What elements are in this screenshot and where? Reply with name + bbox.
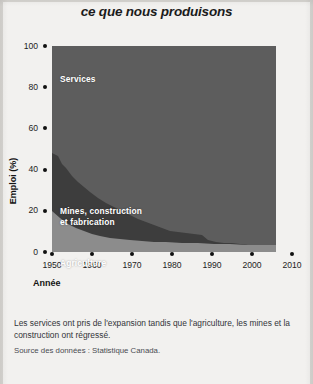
y-tick-label: 80 <box>28 82 38 93</box>
y-tick-dot <box>43 209 47 213</box>
y-tick-dot <box>43 168 47 172</box>
y-tick-dot <box>43 126 47 130</box>
x-tick-dot <box>210 252 214 256</box>
x-tick-dot <box>130 252 134 256</box>
caption-text: Les services ont pris de l'expansion tan… <box>14 318 299 341</box>
caption-source: Source des données : Statistique Canada. <box>14 346 299 356</box>
chart-title: ce que nous produisons <box>0 4 313 19</box>
y-tick-80: 80 <box>0 82 50 93</box>
y-axis-title: Emploi (%) <box>8 141 18 221</box>
y-tick-label: 100 <box>24 41 38 52</box>
y-tick-100: 100 <box>0 41 50 52</box>
band-label-mines-construction-fabrication: Mines, construction et fabrication <box>60 206 142 227</box>
x-tick-label: 1990 <box>192 260 232 270</box>
caption-block: Les services ont pris de l'expansion tan… <box>14 318 299 356</box>
y-tick-label: 40 <box>28 164 38 175</box>
page-edge-top <box>0 0 313 2</box>
x-tick-dot <box>170 252 174 256</box>
x-tick-label: 1980 <box>152 260 192 270</box>
y-tick-dot <box>43 85 47 89</box>
x-tick-label: 2010 <box>272 260 312 270</box>
x-tick-dot <box>250 252 254 256</box>
chart-figure: Services Mines, construction et fabricat… <box>0 26 313 296</box>
x-tick-dot <box>290 252 294 256</box>
x-axis-title: Année <box>33 278 61 288</box>
band-label-agriculture: Agriculture <box>60 258 106 269</box>
band-label-services: Services <box>60 74 96 85</box>
y-tick-label: 60 <box>28 123 38 134</box>
page-edge-right <box>310 0 313 384</box>
y-tick-label: 20 <box>28 205 38 216</box>
figure-page: ce que nous produisons Services Mines, c… <box>0 0 313 384</box>
page-edge-left <box>0 0 3 384</box>
x-tick-label: 2000 <box>232 260 272 270</box>
y-tick-60: 60 <box>0 123 50 134</box>
y-tick-dot <box>43 44 47 48</box>
x-tick-dot <box>50 252 54 256</box>
x-tick-label: 1970 <box>112 260 152 270</box>
x-tick-dot <box>90 252 94 256</box>
